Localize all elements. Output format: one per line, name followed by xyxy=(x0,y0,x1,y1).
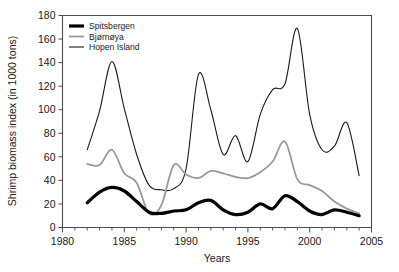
chart-container: 020406080100120140160180 198019851990199… xyxy=(0,0,399,272)
shrimp-biomass-line-chart: 020406080100120140160180 198019851990199… xyxy=(0,0,399,272)
legend-label: Bjørnøya xyxy=(89,32,124,42)
y-tick-label: 140 xyxy=(38,56,56,68)
x-tick-label: 1985 xyxy=(113,235,137,247)
legend-label: Hopen Island xyxy=(89,42,140,52)
legend-label: Spitsbergen xyxy=(89,21,135,31)
x-tick-label: 1995 xyxy=(236,235,260,247)
x-tick-label: 2000 xyxy=(298,235,322,247)
y-axis-title: Shrimp biomass index (in 1000 tons) xyxy=(6,36,18,206)
y-tick-label: 120 xyxy=(38,80,56,92)
y-tick-label: 20 xyxy=(44,198,56,210)
y-tick-label: 160 xyxy=(38,33,56,45)
x-tick-label: 1980 xyxy=(51,235,75,247)
y-tick-label: 40 xyxy=(44,174,56,186)
y-tick-label: 0 xyxy=(50,221,56,233)
x-tick-label: 2005 xyxy=(360,235,384,247)
y-tick-label: 100 xyxy=(38,103,56,115)
y-tick-label: 60 xyxy=(44,151,56,163)
y-tick-label: 180 xyxy=(38,9,56,21)
x-axis-title: Years xyxy=(204,252,230,264)
y-tick-label: 80 xyxy=(44,127,56,139)
x-tick-label: 1990 xyxy=(174,235,198,247)
